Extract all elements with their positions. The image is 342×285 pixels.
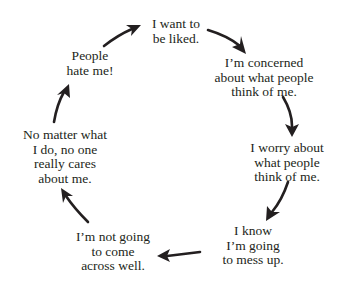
thought-cycle-diagram: I want to be liked. I’m concerned about … <box>0 0 342 285</box>
node-line: I do, no one <box>23 143 107 158</box>
arrow-icon <box>266 182 288 221</box>
node-line: People <box>67 49 114 64</box>
arrow-icon <box>61 188 88 222</box>
node-not-come-across-well: I’m not going to come across well. <box>76 230 150 274</box>
node-line: think of me. <box>250 170 323 185</box>
node-no-one-cares: No matter what I do, no one really cares… <box>23 128 107 186</box>
node-line: about what people <box>215 71 314 86</box>
arrow-icon <box>208 30 246 54</box>
node-line: I worry about <box>250 141 323 156</box>
node-line: I’m not going <box>76 230 150 245</box>
node-want-to-be-liked: I want to be liked. <box>152 17 200 46</box>
node-line: about me. <box>23 172 107 187</box>
node-concerned-about-people: I’m concerned about what people think of… <box>215 56 314 100</box>
arrow-icon <box>283 97 299 137</box>
node-line: think of me. <box>215 85 314 100</box>
node-line: I want to <box>152 17 200 32</box>
node-line: really cares <box>23 157 107 172</box>
node-people-hate-me: People hate me! <box>67 49 114 78</box>
node-line: to come <box>76 245 150 260</box>
arrow-icon <box>104 25 141 46</box>
node-line: hate me! <box>67 64 114 79</box>
node-line: I’m going <box>222 239 283 254</box>
node-line: I know <box>222 224 283 239</box>
node-going-to-mess-up: I know I’m going to mess up. <box>222 224 283 268</box>
node-line: to mess up. <box>222 253 283 268</box>
arrow-icon <box>54 84 70 122</box>
node-line: No matter what <box>23 128 107 143</box>
node-line: be liked. <box>152 32 200 47</box>
arrow-icon <box>157 249 200 262</box>
node-line: across well. <box>76 259 150 274</box>
node-line: I’m concerned <box>215 56 314 71</box>
node-line: what people <box>250 156 323 171</box>
node-worry-about-people: I worry about what people think of me. <box>250 141 323 185</box>
